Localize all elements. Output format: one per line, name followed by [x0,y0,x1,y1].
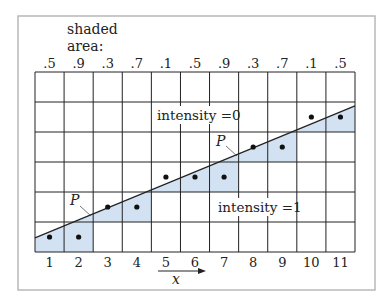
shaded-area-value: .1 [160,56,172,71]
intensity-1-label: intensity =1 [218,199,302,215]
pixel-dot [338,114,343,119]
pixel-dot [221,174,226,179]
shaded-area-value: .3 [102,56,114,71]
shaded-area-value: .7 [131,56,143,71]
shaded-area-value: .9 [72,56,84,71]
intensity-0-label: intensity =0 [157,107,241,123]
x-tick-label: 6 [191,255,199,270]
scan-line [35,106,355,238]
p-leader-2 [226,146,237,156]
x-tick-label: 3 [104,255,112,270]
header-label-line2: area: [67,38,103,54]
shaded-area-value: .9 [218,56,230,71]
x-tick-label: 11 [332,255,349,270]
x-tick-label: 7 [220,255,228,270]
pixel-dot [134,204,139,209]
x-tick-label: 8 [249,255,257,270]
header-label-line1: shaded [67,21,118,37]
point-label-p-2: P [215,133,226,149]
pixel-dot [76,234,81,239]
x-tick-label: 4 [133,255,141,270]
p-leader-1 [80,206,91,216]
shaded-area-value: .1 [305,56,317,71]
x-tick-label: 9 [278,255,286,270]
x-arrow-icon [198,268,206,274]
shaded-area-value: .5 [334,56,346,71]
pixel-dot [192,174,197,179]
x-tick-label: 5 [162,255,170,270]
shaded-area-values: .5.9.3.7.1.5.9.3.7.1.5 [43,56,346,71]
x-tick-label: 1 [45,255,53,270]
shaded-area-value: .5 [43,56,55,71]
shaded-area-value: .3 [247,56,259,71]
pixel-dot [163,174,168,179]
point-label-p-1: P [69,192,80,208]
x-tick-labels: 1234567891011 [45,255,348,270]
pixel-dot [105,204,110,209]
pixel-dot [309,114,314,119]
shaded-area-value: .5 [189,56,201,71]
pixel-dot [280,144,285,149]
pixel-line-diagram: shaded area: .5.9.3.7.1.5.9.3.7.1.5 1234… [0,0,385,303]
x-tick-label: 10 [303,255,320,270]
pixel-dot [47,234,52,239]
x-tick-label: 2 [74,255,82,270]
x-axis-label: x [172,271,180,287]
shaded-area-value: .7 [276,56,288,71]
pixel-dot [251,144,256,149]
